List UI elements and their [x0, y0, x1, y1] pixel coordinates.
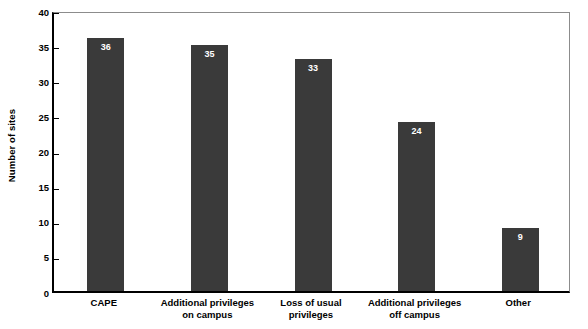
- bar-value-label: 36: [87, 42, 124, 52]
- x-axis-label-line: Additional privileges: [363, 297, 467, 309]
- x-axis-label-line: privileges: [259, 309, 363, 321]
- bar: 33: [295, 59, 332, 291]
- bar: 9: [502, 228, 539, 291]
- bar-value-label: 33: [295, 63, 332, 73]
- x-axis-label-line: off campus: [363, 309, 467, 321]
- y-tick-mark: [54, 83, 59, 84]
- y-tick-label: 20: [38, 147, 49, 158]
- bar: 36: [87, 38, 124, 291]
- bar-value-label: 35: [191, 49, 228, 59]
- y-tick-mark: [54, 224, 59, 225]
- y-tick-label: 30: [38, 77, 49, 88]
- x-axis-label-line: CAPE: [52, 297, 156, 309]
- y-tick-label: 35: [38, 42, 49, 53]
- bar: 24: [398, 122, 435, 291]
- y-tick-label: 0: [44, 288, 49, 299]
- x-axis-label-line: on campus: [156, 309, 260, 321]
- plot-area: 0510152025303540 363533249: [52, 12, 570, 293]
- y-tick-label: 5: [44, 252, 49, 263]
- bar-chart: Number of sites 0510152025303540 3635332…: [0, 0, 588, 329]
- x-axis-label-line: Loss of usual: [259, 297, 363, 309]
- y-tick-mark: [54, 259, 59, 260]
- x-axis-label: CAPE: [52, 297, 156, 309]
- y-tick-mark: [54, 118, 59, 119]
- bar-value-label: 9: [502, 232, 539, 242]
- x-axis-label: Loss of usualprivileges: [259, 297, 363, 320]
- y-tick-label: 10: [38, 217, 49, 228]
- x-axis-label-line: Additional privileges: [156, 297, 260, 309]
- y-tick-mark: [54, 154, 59, 155]
- y-tick-mark: [54, 13, 59, 14]
- x-axis-label: Additional privilegesoff campus: [363, 297, 467, 320]
- bar-value-label: 24: [398, 126, 435, 136]
- y-tick-mark: [54, 48, 59, 49]
- y-tick-label: 25: [38, 112, 49, 123]
- y-axis-title: Number of sites: [6, 86, 17, 206]
- bar: 35: [191, 45, 228, 291]
- y-tick-mark: [54, 189, 59, 190]
- x-axis-label: Additional privilegeson campus: [156, 297, 260, 320]
- x-axis-label: Other: [466, 297, 570, 309]
- y-tick-label: 40: [38, 7, 49, 18]
- y-tick-label: 15: [38, 182, 49, 193]
- x-axis-label-line: Other: [466, 297, 570, 309]
